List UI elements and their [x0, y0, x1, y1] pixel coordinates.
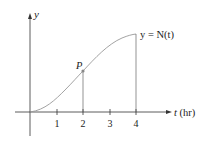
y-axis-arrow-icon — [28, 13, 32, 19]
t-axis-arrow-icon — [166, 110, 172, 114]
tick-label-4: 4 — [134, 118, 139, 129]
curve-label: y = N(t) — [140, 29, 174, 41]
point-p-label: P — [75, 60, 83, 71]
growth-curve-diagram: y t (hr) y = N(t) P 1 2 3 4 — [0, 0, 207, 141]
y-axis-label: y — [33, 8, 39, 20]
tick-label-2: 2 — [81, 118, 86, 129]
tick-label-3: 3 — [108, 118, 113, 129]
tick-label-1: 1 — [55, 118, 60, 129]
t-axis-label: t (hr) — [174, 107, 196, 119]
